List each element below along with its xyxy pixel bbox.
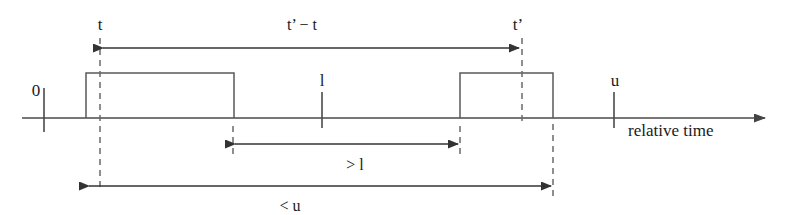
diagram-canvas: 0 l u t t’ t’ − t > l < u relative time <box>0 0 802 215</box>
time-axis-label: relative time <box>628 121 713 140</box>
axis-tick-lower-bound-label: l <box>320 71 325 90</box>
axis-tick-upper-bound-label: u <box>611 71 620 90</box>
second-pulse-outline <box>460 73 553 118</box>
second-pulse <box>460 73 553 118</box>
measure-label-t-prime-minus-t: t’ − t <box>287 16 318 33</box>
first-pulse-outline <box>86 73 234 118</box>
axis-tick-origin-label: 0 <box>32 81 41 100</box>
first-pulse <box>86 73 234 118</box>
event-label-t-prime: t’ <box>513 15 523 34</box>
event-label-t: t <box>98 15 103 34</box>
timing-diagram: 0 l u t t’ t’ − t > l < u relative time <box>0 0 802 215</box>
measure-label-greater-than-l: > l <box>346 156 364 173</box>
measure-label-less-than-u: < u <box>279 197 300 214</box>
